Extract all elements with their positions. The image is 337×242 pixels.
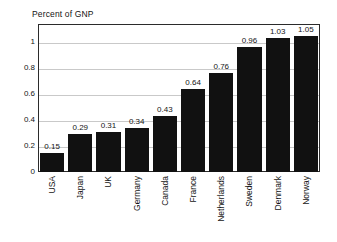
bar xyxy=(237,47,261,172)
x-tick: Canada xyxy=(151,174,179,240)
x-tick: Norway xyxy=(292,174,320,240)
x-tick-label: Canada xyxy=(161,176,170,206)
y-tick-label: 0 xyxy=(31,168,35,176)
x-tick: Sweden xyxy=(235,174,263,240)
y-axis: 10.80.60.40.20 xyxy=(8,24,35,172)
x-tick: France xyxy=(179,174,207,240)
x-tick: Netherlands xyxy=(207,174,235,240)
bar-value-label: 0.43 xyxy=(157,106,173,114)
x-tick-label: Netherlands xyxy=(217,176,226,222)
x-tick: Germany xyxy=(123,174,151,240)
x-tick-label: UK xyxy=(104,176,113,188)
bar-group: 0.15 xyxy=(38,24,66,172)
x-tick: Japan xyxy=(66,174,94,240)
bar xyxy=(68,134,92,172)
bars-layer: 0.150.290.310.340.430.640.760.961.031.05 xyxy=(38,24,320,172)
bar-group: 0.43 xyxy=(151,24,179,172)
bar-value-label: 0.31 xyxy=(101,122,117,130)
x-tick: Denmark xyxy=(264,174,292,240)
bar-group: 0.64 xyxy=(179,24,207,172)
x-axis-category-labels: USAJapanUKGermanyCanadaFranceNetherlands… xyxy=(38,174,320,240)
bar xyxy=(125,128,149,172)
x-tick: USA xyxy=(38,174,66,240)
bar-group: 0.29 xyxy=(66,24,94,172)
x-tick-label: USA xyxy=(48,176,57,193)
bar-value-label: 0.34 xyxy=(129,118,145,126)
bar xyxy=(266,38,290,172)
x-tick-label: Norway xyxy=(302,176,311,205)
y-tick-label: 0.4 xyxy=(24,116,35,124)
bar xyxy=(153,116,177,172)
y-tick-label: 1 xyxy=(31,38,35,46)
x-tick-label: Germany xyxy=(132,176,141,211)
bar-value-label: 0.96 xyxy=(242,37,258,45)
x-tick-label: Japan xyxy=(76,176,85,199)
bar-value-label: 0.76 xyxy=(213,63,229,71)
x-tick: UK xyxy=(94,174,122,240)
y-tick-label: 0.2 xyxy=(24,142,35,150)
bar-value-label: 1.05 xyxy=(298,26,314,34)
bar-value-label: 0.64 xyxy=(185,79,201,87)
y-tick-label: 0.6 xyxy=(24,90,35,98)
bar xyxy=(40,153,64,172)
bar xyxy=(294,36,318,172)
y-tick-label: 0.8 xyxy=(24,64,35,72)
bar-group: 1.05 xyxy=(292,24,320,172)
x-tick-label: Sweden xyxy=(245,176,254,207)
bar-group: 0.34 xyxy=(123,24,151,172)
bar-chart: Percent of GNP 10.80.60.40.20 0.150.290.… xyxy=(0,0,337,242)
bar xyxy=(209,73,233,172)
bar xyxy=(96,132,120,172)
bar-value-label: 0.15 xyxy=(44,143,60,151)
bar xyxy=(181,89,205,172)
bar-group: 0.31 xyxy=(94,24,122,172)
bar-group: 0.96 xyxy=(235,24,263,172)
bar-value-label: 0.29 xyxy=(72,124,88,132)
x-tick-label: France xyxy=(189,176,198,202)
chart-title: Percent of GNP xyxy=(32,9,94,19)
bar-value-label: 1.03 xyxy=(270,28,286,36)
bar-group: 1.03 xyxy=(264,24,292,172)
x-tick-label: Denmark xyxy=(273,176,282,210)
bar-group: 0.76 xyxy=(207,24,235,172)
